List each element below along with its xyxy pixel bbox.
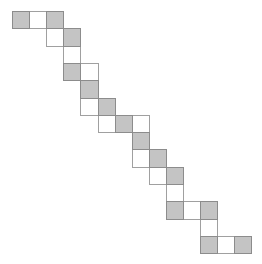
filled-cell xyxy=(166,167,184,185)
filled-cell xyxy=(149,149,167,168)
empty-cell xyxy=(80,98,99,116)
filled-cell xyxy=(12,11,30,29)
staircase-diagram xyxy=(0,0,262,264)
filled-cell xyxy=(132,132,150,150)
empty-cell xyxy=(29,11,47,29)
filled-cell xyxy=(200,236,218,254)
empty-cell xyxy=(217,236,235,254)
empty-cell xyxy=(46,28,64,47)
filled-cell xyxy=(46,11,64,29)
empty-cell xyxy=(183,201,201,220)
filled-cell xyxy=(200,201,218,220)
empty-cell xyxy=(132,115,150,133)
empty-cell xyxy=(80,63,99,81)
filled-cell xyxy=(234,236,252,254)
empty-cell xyxy=(98,115,116,133)
empty-cell xyxy=(63,46,81,64)
filled-cell xyxy=(63,63,81,81)
empty-cell xyxy=(132,149,150,168)
filled-cell xyxy=(166,201,184,220)
empty-cell xyxy=(149,167,167,185)
filled-cell xyxy=(80,80,99,99)
filled-cell xyxy=(98,98,116,116)
filled-cell xyxy=(115,115,133,133)
empty-cell xyxy=(200,219,218,237)
empty-cell xyxy=(166,184,184,202)
filled-cell xyxy=(63,28,81,47)
